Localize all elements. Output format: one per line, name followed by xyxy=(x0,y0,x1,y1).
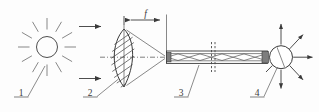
incoming-light-arrows xyxy=(79,27,101,79)
focal-length-label: f xyxy=(144,9,148,19)
fiber-input-ferrule xyxy=(167,53,172,62)
light-emitting-output-end xyxy=(266,24,313,89)
optical-fiber-cable xyxy=(167,42,269,72)
callout-leaders xyxy=(28,65,278,97)
callout-label-2: 2 xyxy=(88,88,93,98)
callout-label-3: 3 xyxy=(179,88,184,98)
sun-rays xyxy=(18,18,76,76)
callout-label-4: 4 xyxy=(255,88,260,98)
sun-light-source xyxy=(18,18,76,76)
converging-lens xyxy=(111,29,134,87)
fiber-output-ferrule xyxy=(262,52,269,63)
optical-fiber-diagram: f 1 2 3 4 xyxy=(0,0,319,112)
callout-label-1: 1 xyxy=(19,88,24,98)
